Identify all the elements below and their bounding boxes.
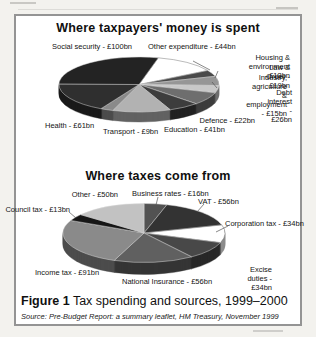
source-line: Source: Pre-Budget Report: a summary lea…: [21, 312, 279, 321]
slice-label: National Insurance - £56bn: [122, 277, 212, 286]
source-title: Pre-Budget Report: a summary leaflet: [49, 312, 175, 321]
figure-caption-text: Tax spending and sources, 1999–2000: [73, 294, 288, 308]
slice-label: Corporation tax - £34bn: [225, 219, 304, 228]
source-rest: , HM Treasury, November 1999: [175, 312, 279, 321]
slice-label: Other - £50bn: [72, 190, 118, 199]
slice-label: VAT - £56bn: [198, 197, 239, 206]
figure-page: Where taxpayers' money is spent Where ta…: [0, 0, 316, 337]
figure-caption-number: Figure 1: [21, 294, 70, 308]
slice-label: Council tax - £13bn: [5, 205, 70, 214]
figure-caption: Figure 1 Tax spending and sources, 1999–…: [21, 294, 288, 308]
source-prefix: Source:: [21, 312, 47, 321]
slice-label: Excise duties - £34bn: [228, 265, 272, 292]
slice-label: Income tax - £91bn: [35, 268, 99, 277]
charts-area: Other expenditure - £44bnHousing & envir…: [0, 0, 316, 337]
leader-line: [69, 212, 76, 218]
